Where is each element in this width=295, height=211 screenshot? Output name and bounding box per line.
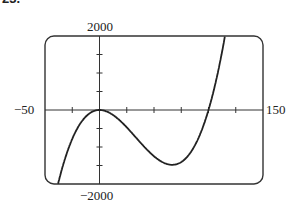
chart-plot <box>0 0 295 211</box>
x-max-label: 150 <box>266 103 286 116</box>
y-max-label: 2000 <box>87 20 113 33</box>
x-min-label: −50 <box>14 103 34 116</box>
y-min-label: −2000 <box>80 189 113 202</box>
